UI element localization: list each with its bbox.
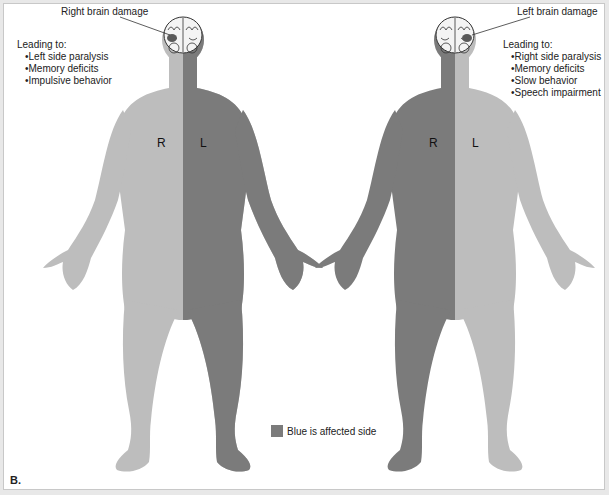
lesion-marker [167, 34, 177, 42]
side-label-l: L [472, 136, 479, 150]
legend: Blue is affected side [271, 425, 376, 437]
side-label-r: R [429, 136, 438, 150]
affected-swatch-icon [271, 425, 283, 437]
pointer-line [120, 17, 170, 35]
panel-label: B. [10, 474, 21, 486]
legend-label: Blue is affected side [287, 426, 376, 437]
leading-to-label: Leading to: [503, 39, 601, 51]
effect-item: Speech impairment [511, 87, 601, 99]
effect-item: Impulsive behavior [25, 75, 112, 87]
side-label-r: R [157, 136, 166, 150]
effect-item: Right side paralysis [511, 51, 601, 63]
right-brain-damage-title: Right brain damage [61, 6, 148, 18]
leading-to-label: Leading to: [17, 39, 112, 51]
lesion-marker [462, 34, 472, 42]
effect-item: Memory deficits [25, 63, 112, 75]
effect-item: Slow behavior [511, 75, 601, 87]
effect-item: Memory deficits [511, 63, 601, 75]
side-label-l: L [200, 136, 207, 150]
left-brain-damage-title: Left brain damage [517, 6, 598, 18]
effect-item: Left side paralysis [25, 51, 112, 63]
right-effects-block: Leading to: Right side paralysis Memory … [503, 39, 601, 99]
pointer-line [472, 17, 530, 35]
left-effects-block: Leading to: Left side paralysis Memory d… [17, 39, 112, 87]
